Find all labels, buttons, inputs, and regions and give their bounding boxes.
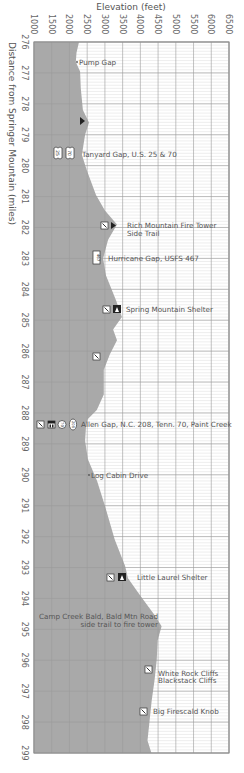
svg-text:70: 70 xyxy=(60,422,65,427)
us-highway-25-shield-icon: 25 xyxy=(54,147,62,159)
svg-text:70: 70 xyxy=(67,150,72,156)
viewpoint-icon xyxy=(107,574,114,581)
x-tick-label: 2500 xyxy=(82,14,91,34)
y-tick-label: 293 xyxy=(20,560,29,575)
y-tick-label: 276 xyxy=(20,34,29,49)
y-tick-label: 298 xyxy=(20,714,29,729)
x-axis-ticks: 1000150020002500300035004000450050005500… xyxy=(29,14,233,34)
y-tick-label: 291 xyxy=(20,498,29,513)
label-spring-mountain-shelter: Spring Mountain Shelter xyxy=(126,305,213,314)
svg-text:208: 208 xyxy=(71,421,75,429)
label-camp-creek-bald-2: side trail to fire tower xyxy=(81,620,159,629)
y-tick-label: 284 xyxy=(20,282,29,297)
forest-road-467-icon: 467 xyxy=(93,251,101,264)
viewpoint-icon xyxy=(93,353,100,360)
annotation-pump-gap: Pump Gap xyxy=(76,58,116,67)
y-tick-label: 286 xyxy=(20,343,29,358)
svg-text:467: 467 xyxy=(96,254,101,262)
state-route-208-icon: 208 xyxy=(69,419,76,430)
viewpoint-icon xyxy=(37,421,44,428)
x-tick-label: 3500 xyxy=(118,14,127,34)
x-tick-label: 3000 xyxy=(100,14,109,34)
y-tick-label: 280 xyxy=(20,158,29,173)
x-axis-title: Elevation (feet) xyxy=(96,2,165,12)
y-tick-label: 290 xyxy=(20,467,29,482)
y-tick-label: 289 xyxy=(20,436,29,451)
y-axis-title: Distance from Springer Mountain (miles) xyxy=(7,42,17,225)
label-pump-gap: Pump Gap xyxy=(79,58,117,67)
label-log-cabin-drive: Log Cabin Drive xyxy=(91,471,149,480)
y-tick-label: 288 xyxy=(20,405,29,420)
y-tick-label: 287 xyxy=(20,374,29,389)
label-little-laurel-shelter: Little Laurel Shelter xyxy=(137,573,208,582)
elevation-profile-chart: Elevation (feet) 10001500200025003000350… xyxy=(0,0,244,773)
x-tick-label: 2000 xyxy=(64,14,73,34)
plot-area xyxy=(34,42,229,753)
viewpoint-icon xyxy=(101,222,108,229)
annotation-viewpoint-286 xyxy=(93,353,100,360)
x-tick-label: 5000 xyxy=(171,14,180,34)
label-allen-gap: Allen Gap, N.C. 208, Tenn. 70, Paint Cre… xyxy=(81,420,233,429)
y-axis-ticks: 2762772782792802812822832842852862872882… xyxy=(20,34,29,760)
annotation-little-laurel-shelter: Little Laurel Shelter xyxy=(107,573,208,582)
y-tick-label: 277 xyxy=(20,65,29,80)
viewpoint-icon xyxy=(140,708,147,715)
svg-text:25: 25 xyxy=(55,150,60,156)
label-rich-mountain-2: Side Trail xyxy=(127,229,160,238)
y-tick-label: 294 xyxy=(20,591,29,606)
x-tick-label: 4500 xyxy=(153,14,162,34)
shelter-icon xyxy=(113,305,121,313)
y-tick-label: 296 xyxy=(20,653,29,668)
x-tick-label: 1500 xyxy=(47,14,56,34)
x-tick-label: 4000 xyxy=(135,14,144,34)
marker-dot xyxy=(76,61,78,63)
y-tick-label: 282 xyxy=(20,220,29,235)
shelter-icon xyxy=(118,573,126,581)
y-tick-label: 295 xyxy=(20,622,29,637)
viewpoint-icon xyxy=(103,306,110,313)
label-big-firescald-knob: Big Firescald Knob xyxy=(153,707,219,716)
x-tick-label: 1000 xyxy=(29,14,38,34)
y-tick-label: 297 xyxy=(20,684,29,699)
y-tick-label: 283 xyxy=(20,251,29,266)
marker-dot xyxy=(88,474,90,476)
label-blackstack-cliffs: Blackstack Cliffs xyxy=(158,676,217,685)
y-tick-label: 281 xyxy=(20,189,29,204)
y-tick-label: 292 xyxy=(20,529,29,544)
viewpoint-icon xyxy=(145,666,152,673)
y-tick-label: 278 xyxy=(20,96,29,111)
annotation-spring-mountain-shelter: Spring Mountain Shelter xyxy=(103,305,213,314)
label-hurricane-gap: Hurricane Gap, USFS 467 xyxy=(108,254,199,263)
x-tick-label: 6500 xyxy=(224,14,233,34)
y-tick-label: 299 xyxy=(20,745,29,760)
y-tick-label: 285 xyxy=(20,313,29,328)
state-route-70-icon: 70 xyxy=(58,421,66,429)
parking-icon xyxy=(48,421,55,428)
us-highway-70-shield-icon: 70 xyxy=(66,147,74,159)
annotation-log-cabin-drive: Log Cabin Drive xyxy=(88,471,149,480)
x-tick-label: 6000 xyxy=(206,14,215,34)
label-tanyard-gap: Tanyard Gap, U.S. 25 & 70 xyxy=(81,150,177,159)
y-tick-label: 279 xyxy=(20,127,29,142)
x-tick-label: 5500 xyxy=(189,14,198,34)
